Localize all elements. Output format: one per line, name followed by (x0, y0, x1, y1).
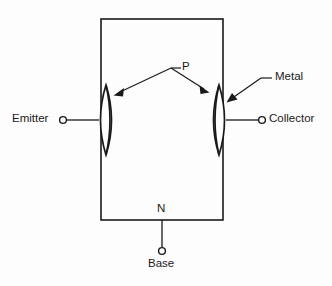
emitter-label: Emitter (12, 113, 48, 125)
collector-label: Collector (269, 113, 314, 125)
emitter-terminal-node[interactable] (60, 117, 67, 124)
p-callout-left-line (120, 68, 171, 92)
base-body-rectangle (101, 19, 223, 220)
p-region-label: P (182, 61, 190, 73)
p-callout-right-arrowhead (200, 86, 210, 95)
base-label: Base (148, 258, 174, 270)
transistor-diagram: Emitter Collector Base P N Metal (0, 0, 332, 286)
base-terminal-node[interactable] (159, 248, 166, 255)
collector-terminal-node[interactable] (259, 117, 266, 124)
metal-callout-line (231, 78, 261, 99)
diagram-canvas (0, 0, 332, 286)
p-callout-left-arrowhead (114, 88, 125, 97)
metal-callout-arrowhead (227, 93, 238, 103)
metal-label: Metal (275, 71, 303, 83)
n-region-label: N (157, 203, 165, 215)
